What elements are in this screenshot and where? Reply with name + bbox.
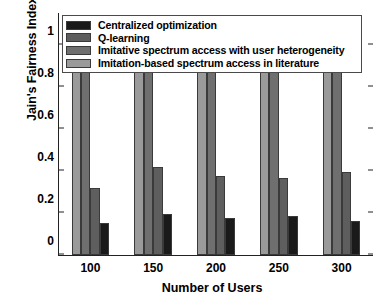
x-tick-label: 150 — [143, 255, 163, 275]
bar — [323, 65, 332, 255]
y-tick-mark — [59, 254, 64, 255]
legend-label: Imitation-based spectrum access in liter… — [98, 57, 319, 69]
bar — [342, 172, 351, 255]
bar — [279, 178, 288, 255]
y-tick-mark — [59, 127, 64, 128]
x-tick-label: 100 — [80, 255, 100, 275]
y-tick-label: 1 — [47, 24, 59, 38]
x-tick-label: 300 — [332, 255, 352, 275]
y-tick-mark-right — [368, 254, 373, 255]
bar — [216, 176, 225, 255]
y-tick-mark-right — [368, 169, 373, 170]
chart-legend: Centralized optimization Q-learning Imit… — [62, 15, 362, 73]
bar — [81, 51, 90, 255]
legend-swatch-q-learning — [66, 33, 91, 42]
y-tick-mark-right — [368, 127, 373, 128]
y-tick-mark-right — [368, 43, 373, 44]
y-tick-label: 0.8 — [37, 66, 59, 80]
y-tick-label: 0.6 — [37, 108, 59, 122]
bar — [134, 60, 143, 255]
legend-swatch-imitation-based-spectrum-access — [66, 59, 91, 68]
legend-item: Centralized optimization — [66, 19, 357, 32]
y-tick-mark — [59, 169, 64, 170]
bar — [269, 55, 278, 255]
bar-chart-figure: Jain's Fairness Index Number of Users 00… — [0, 0, 388, 301]
bar — [197, 62, 206, 255]
bar — [260, 56, 269, 255]
y-tick-mark-right — [368, 85, 373, 86]
bar — [332, 58, 341, 255]
y-tick-mark-right — [368, 211, 373, 212]
legend-label: Q-learning — [98, 32, 149, 44]
bar — [163, 214, 172, 255]
y-tick-label: 0 — [47, 234, 59, 248]
bar — [72, 56, 81, 255]
legend-label: Imitative spectrum access with user hete… — [98, 44, 344, 56]
bar — [351, 221, 360, 255]
bar — [100, 223, 109, 255]
legend-label: Centralized optimization — [98, 19, 217, 31]
bar — [288, 216, 297, 255]
x-tick-label: 200 — [206, 255, 226, 275]
bar — [153, 167, 162, 255]
bar — [225, 218, 234, 255]
legend-item: Imitative spectrum access with user hete… — [66, 44, 357, 57]
bar — [207, 56, 216, 255]
bar — [144, 54, 153, 255]
y-tick-label: 0.2 — [37, 192, 59, 206]
bar — [90, 188, 99, 255]
x-axis-title: Number of Users — [47, 281, 377, 295]
legend-item: Q-learning — [66, 32, 357, 45]
y-tick-mark — [59, 85, 64, 86]
y-tick-mark — [59, 211, 64, 212]
legend-swatch-imitative-spectrum-access — [66, 46, 91, 55]
legend-item: Imitation-based spectrum access in liter… — [66, 57, 357, 70]
x-tick-label: 250 — [269, 255, 289, 275]
legend-swatch-centralized-optimization — [66, 21, 91, 30]
y-tick-label: 0.4 — [37, 150, 59, 164]
